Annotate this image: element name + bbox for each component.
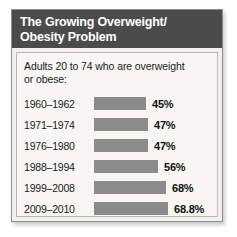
page-title: The Growing Overweight/ Obesity Problem [20, 15, 222, 44]
bar-zone: 68.8% [94, 202, 211, 215]
row-label-period: 1971–1974 [24, 119, 94, 131]
page-root: The Growing Overweight/ Obesity Problem … [0, 0, 237, 237]
row-label-period: 2009–2010 [24, 203, 94, 215]
table-row: 1960–1962 45% [24, 93, 211, 114]
row-value-percent: 47% [154, 119, 175, 131]
row-value-percent: 56% [164, 161, 185, 173]
bar-chart: 1960–1962 45% 1971–1974 47% 1976–1980 [24, 93, 211, 219]
table-row: 2009–2010 68.8% [24, 198, 211, 219]
bar-zone: 56% [94, 160, 211, 173]
bar-fill [94, 97, 146, 110]
card-header: The Growing Overweight/ Obesity Problem [12, 10, 222, 48]
row-label-period: 1999–2008 [24, 182, 94, 194]
bar-fill [94, 139, 148, 152]
table-row: 1999–2008 68% [24, 177, 211, 198]
row-label-period: 1976–1980 [24, 140, 94, 152]
row-value-percent: 68% [172, 182, 193, 194]
bar-fill [94, 181, 166, 194]
table-row: 1988–1994 56% [24, 156, 211, 177]
table-row: 1971–1974 47% [24, 114, 211, 135]
bar-zone: 45% [94, 97, 211, 110]
bar-fill [94, 160, 158, 173]
bar-zone: 47% [94, 118, 211, 131]
row-value-percent: 47% [154, 140, 175, 152]
bar-fill [94, 118, 148, 131]
row-value-percent: 68.8% [174, 203, 204, 215]
bar-zone: 47% [94, 139, 211, 152]
card-body: Adults 20 to 74 who are overweight or ob… [16, 52, 218, 217]
table-row: 1976–1980 47% [24, 135, 211, 156]
row-label-period: 1988–1994 [24, 161, 94, 173]
row-label-period: 1960–1962 [24, 98, 94, 110]
chart-subtitle: Adults 20 to 74 who are overweight or ob… [24, 60, 211, 86]
bar-zone: 68% [94, 181, 211, 194]
row-value-percent: 45% [152, 98, 173, 110]
infographic-card: The Growing Overweight/ Obesity Problem … [11, 9, 223, 222]
bar-fill [94, 202, 168, 215]
